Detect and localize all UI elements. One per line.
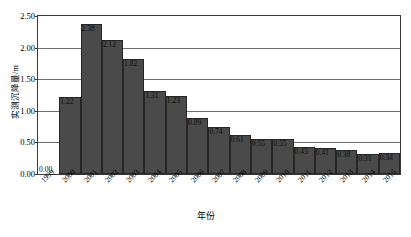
bar-value-label: 0.41 (316, 149, 329, 157)
bar-group: 0.34 (379, 16, 400, 174)
x-axis-tick: 2013 (337, 176, 358, 208)
x-axis-tick: 2014 (358, 176, 379, 208)
chart-figure: 实测沉降量/m 0.000.501.001.502.002.50 0.001.2… (0, 0, 411, 237)
bar-value-label: 0.43 (295, 148, 308, 156)
bar-group: 0.43 (294, 16, 315, 174)
bar-group: 2.38 (81, 16, 102, 174)
bar[interactable] (144, 91, 165, 174)
bar-group: 0.61 (230, 16, 251, 174)
bar-group: 2.12 (102, 16, 123, 174)
bar[interactable] (166, 96, 187, 174)
bar-group: 0.55 (251, 16, 272, 174)
bar[interactable] (81, 24, 102, 174)
bar-value-label: 0.31 (358, 155, 371, 163)
x-axis-tick: 2008 (230, 176, 251, 208)
x-axis-tick: 2000 (58, 176, 79, 208)
bar-group: 1.22 (59, 16, 80, 174)
y-axis-tick-label: 0.50 (20, 137, 35, 147)
bar-value-label: 1.23 (167, 97, 180, 105)
x-axis-tick: 1999 (37, 176, 58, 208)
bar-group: 0.38 (336, 16, 357, 174)
x-axis-tick: 2002 (101, 176, 122, 208)
y-axis-tick-label: 1.50 (20, 74, 35, 84)
x-axis-tick: 2007 (208, 176, 229, 208)
y-axis-tick-mark (35, 174, 38, 175)
bar-value-label: 0.55 (273, 140, 286, 148)
x-axis-tick: 2010 (272, 176, 293, 208)
x-axis-tick: 2005 (165, 176, 186, 208)
bar-value-label: 0.55 (252, 140, 265, 148)
y-axis-tick-label: 0.00 (20, 169, 35, 179)
bar-group: 0.00 (38, 16, 59, 174)
bar-value-label: 1.22 (60, 98, 73, 106)
bar-group: 1.82 (123, 16, 144, 174)
x-axis-tick: 2015 (380, 176, 401, 208)
bar-group: 1.23 (166, 16, 187, 174)
bar-value-label: 1.31 (145, 92, 158, 100)
y-axis-tick-label: 2.00 (20, 43, 35, 53)
bar[interactable] (59, 97, 80, 174)
x-axis-tick: 2001 (80, 176, 101, 208)
plot-area: 0.000.501.001.502.002.50 0.001.222.382.1… (37, 15, 401, 175)
bar-value-label: 2.12 (103, 41, 116, 49)
x-axis-tick-labels: 1999200020012002200320042005200620072008… (37, 176, 401, 208)
bar-group: 0.89 (187, 16, 208, 174)
bar[interactable] (102, 40, 123, 174)
bar-group: 0.31 (357, 16, 378, 174)
bar-value-label: 0.61 (231, 136, 244, 144)
x-axis-title: 年份 (0, 209, 411, 222)
figure-caption-bottom (0, 228, 411, 237)
bar-group: 0.41 (315, 16, 336, 174)
bar-value-label: 2.38 (82, 25, 95, 33)
bar-group: 1.31 (144, 16, 165, 174)
bar-group: 0.55 (272, 16, 293, 174)
x-axis-tick: 2006 (187, 176, 208, 208)
bar-series: 0.001.222.382.121.821.311.230.890.740.61… (38, 16, 400, 174)
bar-value-label: 0.74 (209, 128, 222, 136)
x-axis-tick: 2012 (315, 176, 336, 208)
y-axis-title: 实测沉降量/m (8, 42, 20, 142)
figure-caption-top (0, 0, 411, 8)
bar[interactable] (123, 59, 144, 174)
bar-value-label: 0.38 (337, 151, 350, 159)
bar-group: 0.74 (208, 16, 229, 174)
x-axis-tick: 2004 (144, 176, 165, 208)
bar-value-label: 1.82 (124, 60, 137, 68)
y-axis-tick-label: 2.50 (20, 11, 35, 21)
bar-value-label: 0.34 (380, 154, 393, 162)
x-axis-tick: 2003 (123, 176, 144, 208)
x-axis-tick: 2009 (251, 176, 272, 208)
bar-value-label: 0.89 (188, 119, 201, 127)
y-axis-tick-label: 1.00 (20, 106, 35, 116)
x-axis-tick: 2011 (294, 176, 315, 208)
